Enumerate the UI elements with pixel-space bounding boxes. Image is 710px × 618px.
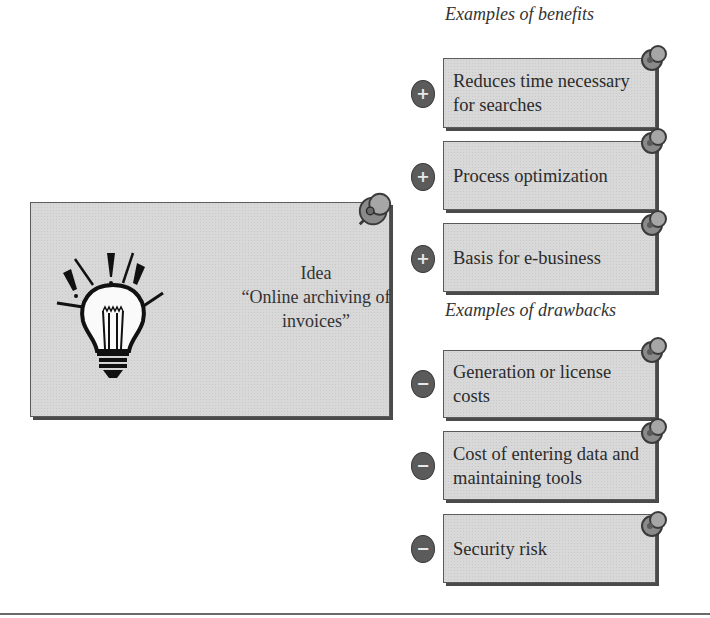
drawback-text: Security risk bbox=[453, 537, 649, 561]
plus-icon: + bbox=[411, 245, 435, 273]
plus-icon: + bbox=[411, 80, 435, 108]
benefit-text: Reduces time necessary for searches bbox=[453, 69, 649, 117]
drawbacks-heading: Examples of drawbacks bbox=[445, 300, 616, 321]
lightbulb-icon bbox=[53, 251, 173, 381]
idea-title-line1: “Online archiving of bbox=[231, 285, 401, 309]
idea-title-line2: invoices” bbox=[231, 309, 401, 333]
benefit-card: Reduces time necessary for searches bbox=[443, 58, 656, 128]
benefit-text: Process optimization bbox=[453, 164, 649, 188]
idea-card: Idea “Online archiving of invoices” bbox=[30, 202, 390, 417]
minus-icon: − bbox=[411, 535, 435, 563]
drawback-card: Cost of entering data and maintaining to… bbox=[443, 431, 656, 500]
pushpin-icon bbox=[640, 127, 670, 157]
drawback-text: Cost of entering data and maintaining to… bbox=[453, 442, 649, 490]
benefit-card: Process optimization bbox=[443, 141, 656, 210]
idea-label: Idea bbox=[231, 261, 401, 285]
drawback-card: Security risk bbox=[443, 514, 656, 583]
pushpin-icon bbox=[640, 417, 670, 447]
benefit-card: Basis for e-business bbox=[443, 223, 656, 292]
pushpin-icon bbox=[640, 336, 670, 366]
pushpin-icon bbox=[356, 190, 394, 228]
minus-icon: − bbox=[411, 370, 435, 398]
drawback-text: Generation or license costs bbox=[453, 360, 649, 408]
divider-line bbox=[0, 613, 710, 615]
minus-icon: − bbox=[411, 452, 435, 480]
benefit-text: Basis for e-business bbox=[453, 246, 649, 270]
pushpin-icon bbox=[640, 44, 670, 74]
pushpin-icon bbox=[640, 209, 670, 239]
plus-icon: + bbox=[411, 163, 435, 191]
pushpin-icon bbox=[640, 510, 670, 540]
drawback-card: Generation or license costs bbox=[443, 350, 656, 418]
benefits-heading: Examples of benefits bbox=[445, 4, 594, 25]
idea-text: Idea “Online archiving of invoices” bbox=[231, 261, 401, 333]
